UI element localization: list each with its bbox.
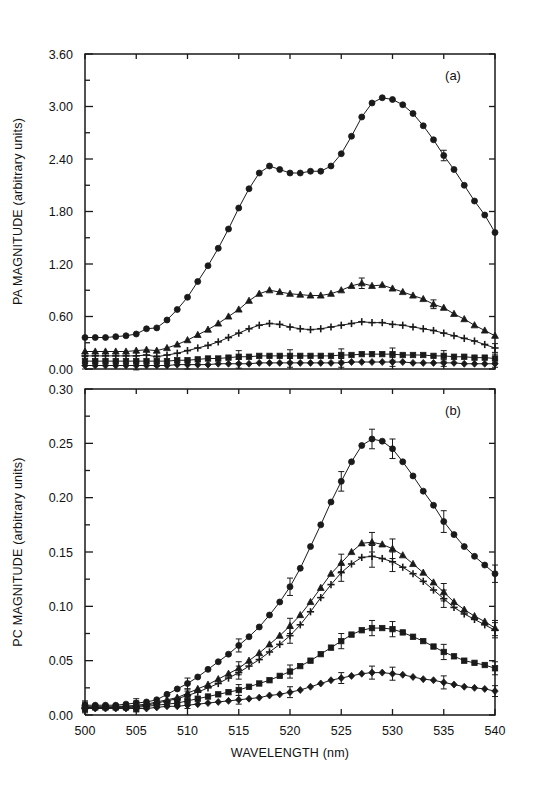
data-point-triangle bbox=[369, 539, 376, 545]
data-point-square bbox=[277, 353, 282, 358]
series-2-triangle bbox=[82, 532, 499, 710]
data-point-square bbox=[287, 669, 292, 674]
data-point-square bbox=[246, 354, 251, 359]
y-tick-label: 0.10 bbox=[49, 600, 73, 614]
data-point-diamond bbox=[205, 700, 211, 707]
data-point-square bbox=[482, 662, 487, 667]
data-point-diamond bbox=[410, 673, 416, 680]
data-point-triangle bbox=[461, 316, 468, 322]
data-point-circle bbox=[420, 488, 426, 494]
y-tick-label: 0.00 bbox=[49, 709, 73, 723]
data-point-diamond bbox=[369, 359, 375, 366]
y-tick-label: 0.15 bbox=[49, 546, 73, 560]
data-point-circle bbox=[195, 279, 201, 285]
data-point-circle bbox=[205, 263, 211, 269]
data-point-circle bbox=[195, 674, 201, 680]
data-point-plus bbox=[491, 627, 498, 634]
data-point-square bbox=[277, 673, 282, 678]
data-point-square bbox=[441, 649, 446, 654]
data-point-circle bbox=[410, 473, 416, 479]
data-point-triangle bbox=[358, 280, 365, 286]
x-axis-title: WAVELENGTH (nm) bbox=[231, 746, 349, 760]
data-point-diamond bbox=[338, 675, 344, 682]
data-point-diamond bbox=[318, 680, 324, 687]
data-point-plus bbox=[368, 553, 375, 560]
x-tick-label: 500 bbox=[75, 724, 96, 738]
data-point-diamond bbox=[205, 361, 211, 368]
data-point-plus bbox=[461, 335, 468, 342]
y-axis-title: PA MAGNITUDE (arbitrary units) bbox=[11, 118, 25, 305]
data-point-plus bbox=[215, 338, 222, 345]
data-point-plus bbox=[225, 334, 232, 341]
x-tick-label: 530 bbox=[382, 724, 403, 738]
data-point-circle bbox=[215, 245, 221, 251]
data-point-plus bbox=[235, 330, 242, 337]
plot-frame bbox=[85, 54, 495, 369]
series-2-triangle bbox=[82, 278, 499, 354]
data-point-plus bbox=[389, 321, 396, 328]
data-point-plus bbox=[430, 327, 437, 334]
data-point-triangle bbox=[399, 552, 406, 558]
data-point-triangle bbox=[225, 313, 232, 319]
data-point-square bbox=[236, 687, 241, 692]
series-1-circle bbox=[82, 95, 498, 341]
data-point-plus bbox=[256, 322, 263, 329]
data-point-circle bbox=[461, 544, 467, 550]
data-point-circle bbox=[338, 478, 344, 484]
data-point-circle bbox=[318, 522, 324, 528]
data-point-circle bbox=[308, 544, 314, 550]
data-point-triangle bbox=[246, 657, 253, 663]
data-point-circle bbox=[328, 163, 334, 169]
data-point-diamond bbox=[482, 685, 488, 692]
panel-b: 0.000.050.100.150.200.250.30PC MAGNITUDE… bbox=[11, 383, 499, 723]
data-point-circle bbox=[92, 335, 98, 341]
data-point-square bbox=[390, 351, 395, 356]
data-point-square bbox=[226, 689, 231, 694]
x-tick-label: 540 bbox=[485, 724, 506, 738]
data-point-diamond bbox=[297, 359, 303, 366]
data-point-square bbox=[328, 353, 333, 358]
data-point-circle bbox=[379, 95, 385, 101]
data-point-diamond bbox=[236, 696, 242, 703]
data-point-plus bbox=[297, 325, 304, 332]
data-point-circle bbox=[267, 163, 273, 169]
data-point-circle bbox=[441, 153, 447, 159]
data-point-square bbox=[349, 352, 354, 357]
data-point-diamond bbox=[430, 359, 436, 366]
data-point-diamond bbox=[266, 359, 272, 366]
data-point-plus bbox=[266, 648, 273, 655]
data-point-diamond bbox=[225, 697, 231, 704]
data-point-square bbox=[472, 355, 477, 360]
data-point-diamond bbox=[379, 359, 385, 366]
y-tick-label: 3.00 bbox=[49, 100, 73, 114]
data-point-diamond bbox=[318, 359, 324, 366]
data-point-circle bbox=[400, 102, 406, 108]
data-point-circle bbox=[451, 167, 457, 173]
panel-a: 0.000.601.201.802.403.003.60PA MAGNITUDE… bbox=[11, 48, 499, 377]
data-point-square bbox=[359, 351, 364, 356]
y-axis-title: PC MAGNITUDE (arbitrary units) bbox=[11, 457, 25, 646]
y-tick-label: 0.30 bbox=[49, 383, 73, 397]
data-point-square bbox=[216, 692, 221, 697]
data-point-plus bbox=[399, 564, 406, 571]
data-point-circle bbox=[144, 326, 150, 332]
data-point-diamond bbox=[471, 684, 477, 691]
data-point-triangle bbox=[205, 326, 212, 332]
data-point-diamond bbox=[461, 683, 467, 690]
data-point-diamond bbox=[369, 669, 375, 676]
data-point-diamond bbox=[359, 670, 365, 677]
data-point-circle bbox=[133, 331, 139, 337]
data-point-circle bbox=[256, 624, 262, 630]
data-point-square bbox=[380, 351, 385, 356]
data-point-square bbox=[410, 634, 415, 639]
data-point-diamond bbox=[420, 359, 426, 366]
data-point-diamond bbox=[266, 692, 272, 699]
data-point-square bbox=[205, 356, 210, 361]
data-point-circle bbox=[308, 168, 314, 174]
data-point-plus bbox=[389, 558, 396, 565]
data-point-triangle bbox=[492, 332, 499, 338]
data-point-diamond bbox=[492, 688, 498, 695]
data-point-square bbox=[257, 681, 262, 686]
data-point-square bbox=[267, 678, 272, 683]
x-tick-label: 510 bbox=[177, 724, 198, 738]
